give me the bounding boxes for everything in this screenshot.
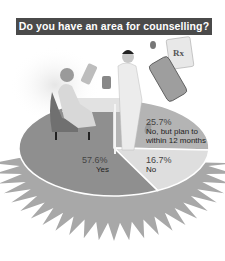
chair-leg [55,132,57,140]
pill-icon [150,41,156,49]
table-leg [114,104,116,154]
slice-label: No [146,165,157,174]
slice-label: No, but plan to [146,127,199,136]
slice-value-label: 57.6% [82,155,108,165]
chair-leg [88,132,90,140]
slice-label: within 12 months [145,136,206,145]
rx-text: Rx [173,48,184,58]
bottle-icon [102,76,111,89]
slice-value-label: 16.7% [146,155,172,165]
pharmacist-hair [122,50,134,54]
patient-head [60,68,74,82]
slice-label: Yes [96,165,109,174]
pie-chart: Rx 25.7% No, but plan to within 12 month… [0,0,225,261]
slice-value-label: 25.7% [146,117,172,127]
